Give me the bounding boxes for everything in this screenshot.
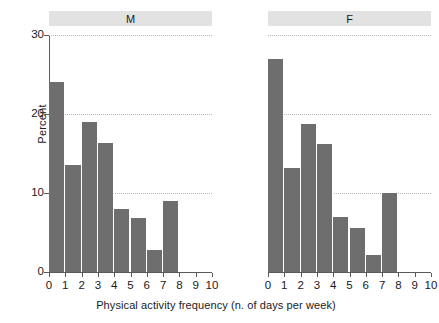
y-tick-mark (44, 114, 49, 115)
x-tick-label: 1 (57, 280, 73, 292)
x-tick-mark (268, 273, 269, 277)
x-tick-mark (350, 273, 351, 277)
x-tick-label: 3 (90, 280, 106, 292)
x-tick-mark (82, 273, 83, 277)
x-tick-label: 8 (171, 280, 187, 292)
bar (366, 255, 382, 272)
x-tick-mark (333, 273, 334, 277)
x-tick-label: 5 (342, 280, 358, 292)
x-tick-mark (147, 273, 148, 277)
bar (114, 209, 130, 272)
x-tick-mark (163, 273, 164, 277)
x-tick-mark (196, 273, 197, 277)
x-tick-label: 8 (390, 280, 406, 292)
y-tick-mark (44, 193, 49, 194)
panel-strip-label: M (49, 11, 212, 26)
y-tick-mark (44, 272, 49, 273)
bar (65, 165, 81, 272)
x-tick-mark (49, 273, 50, 277)
x-tick-label: 9 (188, 280, 204, 292)
x-tick-mark (179, 273, 180, 277)
panel-strip-label: F (268, 11, 431, 26)
bar (163, 201, 179, 272)
bars-layer (49, 35, 212, 272)
bar (268, 59, 284, 272)
panel-m: M012345678910 (49, 0, 212, 323)
bar (284, 168, 300, 272)
bars-layer (268, 35, 431, 272)
x-tick-mark (415, 273, 416, 277)
y-tick-label: 0 (22, 266, 44, 278)
bar (333, 217, 349, 272)
bar (147, 250, 163, 272)
bar (301, 124, 317, 272)
x-tick-label: 1 (276, 280, 292, 292)
x-tick-label: 7 (374, 280, 390, 292)
bar (350, 228, 366, 272)
x-tick-label: 9 (407, 280, 423, 292)
panel-f: F012345678910 (268, 0, 431, 323)
x-tick-mark (212, 273, 213, 277)
y-tick-label: 10 (22, 187, 44, 199)
x-axis-title: Physical activity frequency (n. of days … (0, 299, 432, 311)
x-tick-label: 10 (423, 280, 439, 292)
x-tick-label: 6 (358, 280, 374, 292)
x-tick-mark (317, 273, 318, 277)
y-tick-label: 30 (22, 29, 44, 41)
bar (82, 122, 98, 272)
x-tick-label: 7 (155, 280, 171, 292)
x-tick-label: 2 (293, 280, 309, 292)
x-tick-label: 0 (41, 280, 57, 292)
bar (382, 193, 398, 272)
bar (317, 144, 333, 272)
x-tick-mark (131, 273, 132, 277)
x-tick-label: 5 (123, 280, 139, 292)
x-tick-label: 4 (325, 280, 341, 292)
y-axis-ticks: 0102030 (22, 0, 44, 323)
x-tick-mark (301, 273, 302, 277)
x-tick-label: 10 (204, 280, 220, 292)
y-tick-mark (44, 35, 49, 36)
x-tick-mark (65, 273, 66, 277)
x-tick-mark (98, 273, 99, 277)
x-tick-mark (366, 273, 367, 277)
x-tick-label: 0 (260, 280, 276, 292)
y-tick-label: 20 (22, 108, 44, 120)
x-tick-label: 3 (309, 280, 325, 292)
x-tick-mark (284, 273, 285, 277)
x-tick-label: 4 (106, 280, 122, 292)
x-tick-mark (431, 273, 432, 277)
bar (131, 218, 147, 272)
x-tick-label: 2 (74, 280, 90, 292)
x-tick-label: 6 (139, 280, 155, 292)
bar (49, 82, 65, 272)
x-tick-mark (398, 273, 399, 277)
bar (98, 143, 114, 272)
x-tick-mark (382, 273, 383, 277)
x-tick-mark (114, 273, 115, 277)
